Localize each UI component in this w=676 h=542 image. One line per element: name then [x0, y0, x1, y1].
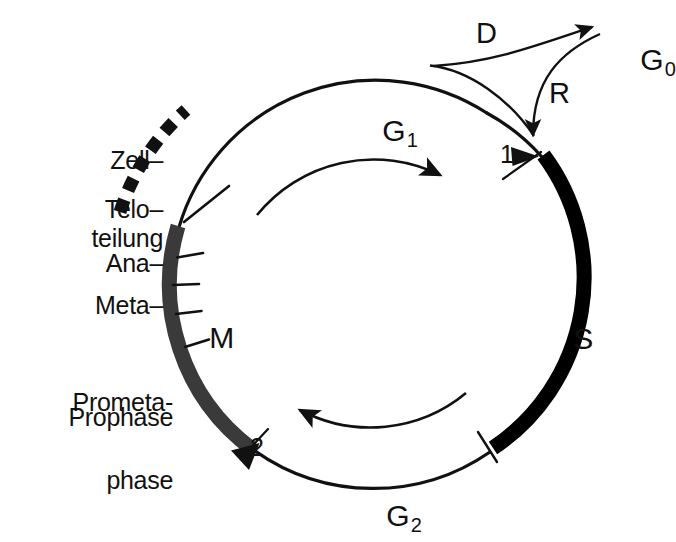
g0-fork-line [430, 66, 534, 137]
subphase-label-metaphase: Meta– [3, 292, 163, 318]
prometaphase-line-2: phase [3, 467, 173, 493]
phase-label-g1: G1 [349, 84, 417, 178]
phase-label-m: M [176, 291, 234, 385]
tick-telo [177, 253, 203, 258]
checkpoint-label-2: 2 [250, 434, 264, 460]
differentiation-path-D [434, 27, 592, 66]
zellteilung-line-1: Zell– [3, 147, 163, 173]
checkpoint-label-1: 1 [500, 141, 514, 167]
subphase-label-telophase: Telo– [3, 196, 163, 222]
path-label-d: D [476, 18, 497, 48]
bottom-rotation-arrow [300, 393, 466, 427]
path-label-r: R [549, 78, 570, 108]
subphase-label-prometaphase: Prometa- phase [3, 337, 173, 542]
tick-ana [173, 284, 199, 285]
subphase-label-anaphase: Ana– [3, 250, 163, 276]
resting-state-label-g0: G0 [607, 13, 675, 107]
phase-label-g2: G2 [353, 469, 421, 542]
phase-label-s: S [540, 292, 593, 386]
subphase-label-prophase: Prophase [3, 404, 173, 430]
m-start-tick [184, 186, 229, 222]
zellteilung-line-2: teilung [3, 225, 163, 251]
